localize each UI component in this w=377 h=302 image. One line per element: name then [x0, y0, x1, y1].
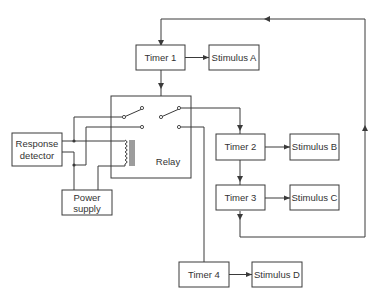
- timer3-label: Timer 3: [225, 192, 257, 203]
- response-detector-label-2: detector: [20, 150, 54, 161]
- timer1-down-arrow: [158, 83, 164, 89]
- switch2-no-contact: [177, 106, 180, 109]
- switch1-nc-contact: [140, 125, 143, 128]
- stimulus-b-label: Stimulus B: [292, 141, 337, 152]
- stimulus-d-arrow: [246, 272, 252, 277]
- timer4-label: Timer 4: [188, 269, 220, 280]
- switch2-common-contact: [159, 115, 162, 118]
- timer3-in-arrow: [237, 176, 243, 182]
- detector-lower-wire: [62, 152, 74, 190]
- junction-dot-upper: [72, 139, 75, 142]
- loop-arrow-right: [362, 125, 368, 131]
- relay-label: Relay: [156, 156, 181, 167]
- stimulus-c-label: Stimulus C: [292, 192, 338, 203]
- block-diagram: Timer 1 Stimulus A Relay Response detect…: [0, 0, 377, 302]
- timer2-in-arrow: [237, 125, 243, 131]
- junction-dot-lower: [72, 163, 75, 166]
- loop-arrow-top: [264, 16, 270, 22]
- stimulus-a-label: Stimulus A: [212, 52, 258, 63]
- response-detector-label-1: Response: [16, 138, 59, 149]
- power-supply-label-1: Power: [74, 192, 101, 203]
- power-supply-label-2: supply: [73, 203, 101, 214]
- stimulus-a-arrow: [203, 55, 209, 60]
- timer3-out-arrow: [237, 214, 243, 220]
- timer1-label: Timer 1: [145, 52, 177, 63]
- switch2-nc-contact: [177, 125, 180, 128]
- stimulus-d-label: Stimulus D: [254, 269, 300, 280]
- timer2-label: Timer 2: [225, 141, 257, 152]
- switch1-no-contact: [140, 106, 143, 109]
- stimulus-c-arrow: [284, 196, 290, 201]
- stimulus-b-arrow: [284, 145, 290, 150]
- switch1-common-contact: [122, 115, 125, 118]
